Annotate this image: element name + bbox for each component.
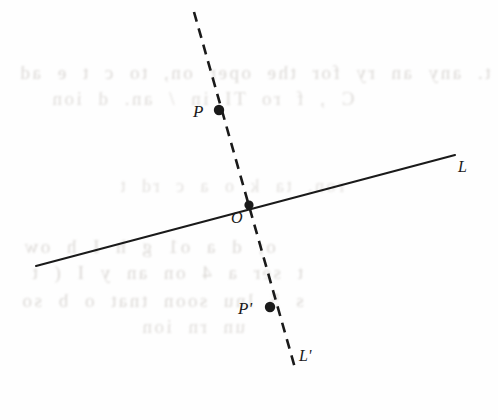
point-marker [265, 302, 275, 312]
label-line-l: L [458, 159, 467, 175]
label-point-o: O [231, 210, 243, 226]
figure-page: t. any an ry for the oper on, to c t e a… [0, 0, 498, 420]
label-line-l-prime: L' [299, 348, 311, 364]
figure-points [214, 105, 275, 312]
point-marker [214, 105, 224, 115]
label-point-p-prime: P' [238, 300, 252, 317]
geometry-figure [0, 0, 498, 420]
label-point-p: P [193, 103, 203, 120]
line-l [36, 155, 455, 266]
point-marker [244, 200, 253, 209]
